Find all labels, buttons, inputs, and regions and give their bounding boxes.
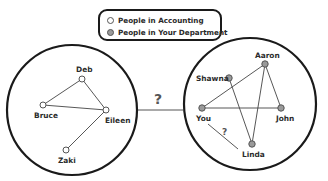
legend: People in Accounting People in Your Depa… (98, 9, 222, 41)
node-deb (79, 76, 85, 82)
node-bruce (40, 102, 46, 108)
node-linda (249, 141, 255, 147)
label-linda: Linda (242, 150, 265, 159)
label-john: John (275, 114, 294, 123)
node-eileen (103, 107, 109, 113)
legend-label-accounting: People in Accounting (118, 16, 204, 25)
node-you (199, 105, 205, 111)
label-bruce: Bruce (34, 111, 58, 120)
label-deb: Deb (76, 65, 92, 74)
you-linda-question-mark: ? (222, 127, 227, 137)
label-aaron: Aaron (255, 51, 280, 60)
label-zaki: Zaki (58, 156, 76, 165)
legend-label-department: People in Your Department (118, 28, 228, 37)
node-zaki (63, 147, 69, 153)
legend-item-department: People in Your Department (107, 26, 220, 38)
diagram-canvas: ? Deb Bruce Eileen Zaki ? Aaron (0, 0, 328, 181)
label-shawna: Shawna (196, 74, 229, 83)
legend-white-dot-icon (107, 17, 114, 24)
label-eileen: Eileen (105, 116, 130, 125)
group-connector-question-mark: ? (154, 91, 162, 107)
node-john (278, 105, 284, 111)
label-you: You (195, 114, 211, 123)
legend-item-accounting: People in Accounting (107, 14, 220, 26)
node-aaron (262, 61, 268, 67)
legend-gray-dot-icon (107, 29, 114, 36)
